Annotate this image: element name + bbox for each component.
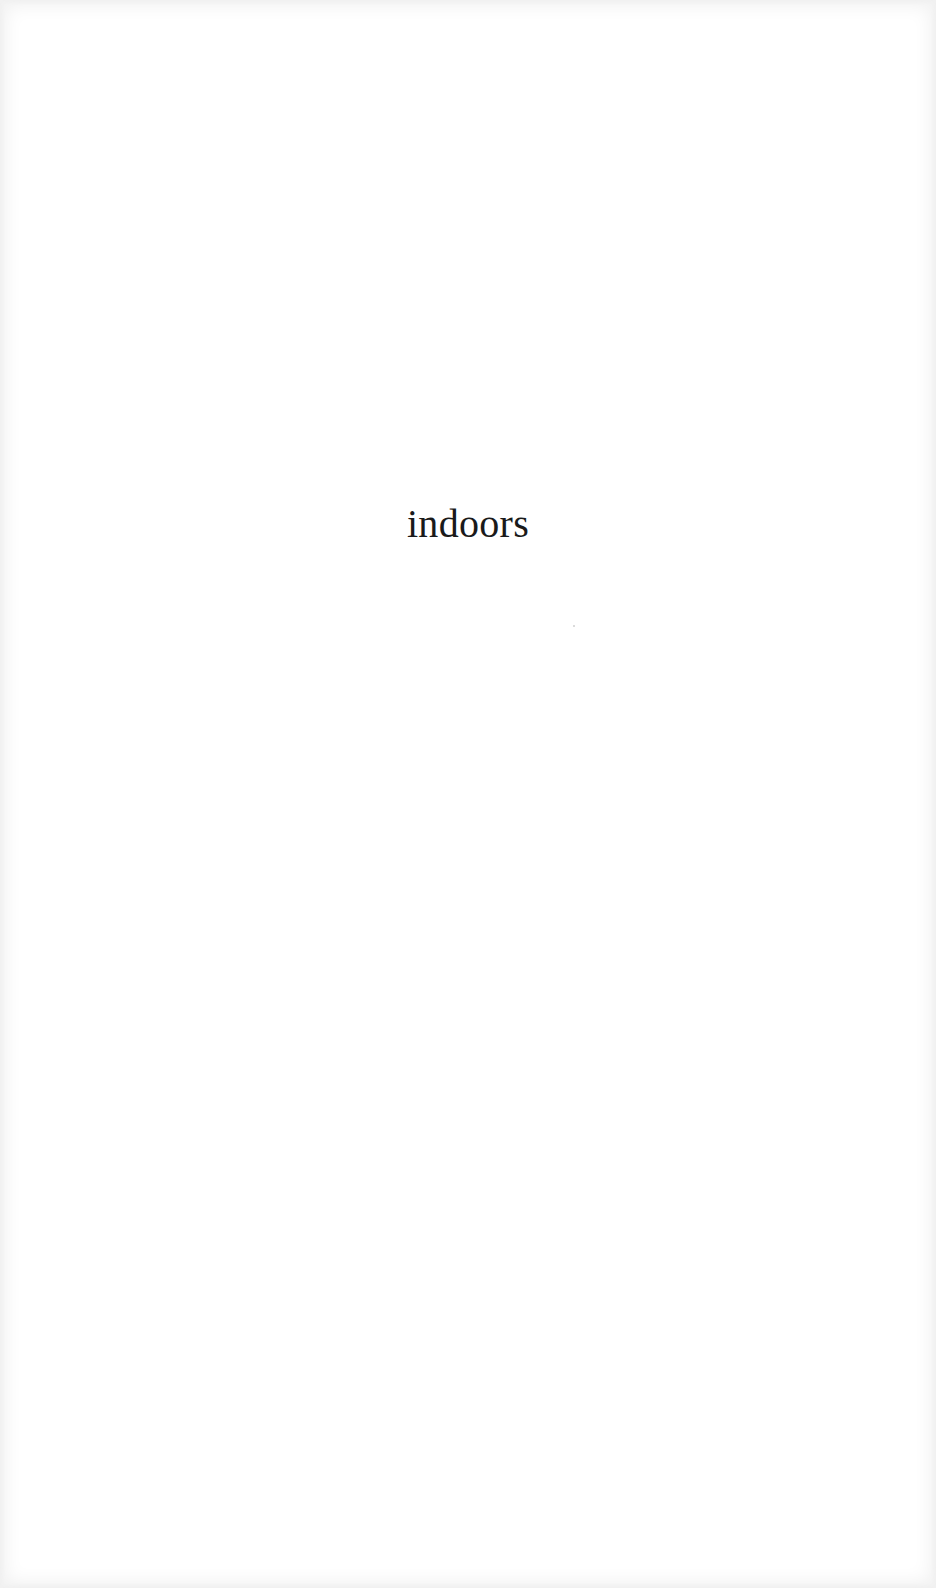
paper-speck — [573, 625, 575, 627]
section-title: indoors — [0, 500, 936, 548]
document-page: indoors — [0, 0, 936, 1588]
